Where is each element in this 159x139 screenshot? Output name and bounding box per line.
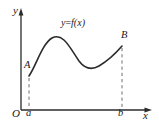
tick-label-b: b	[118, 108, 123, 119]
point-label-a: A	[24, 60, 30, 71]
function-curve	[29, 37, 122, 76]
curve-equation-label: y=f(x)	[61, 18, 85, 28]
function-graph-figure: y x O a b A B y=f(x)	[0, 0, 159, 139]
y-axis-label: y	[13, 5, 18, 16]
point-label-b: B	[121, 30, 127, 41]
curve-equation-rhs: f(x)	[71, 17, 85, 28]
tick-label-a: a	[26, 108, 31, 119]
x-axis-label: x	[143, 110, 148, 121]
y-axis-arrowhead	[19, 8, 24, 16]
origin-label: O	[12, 108, 20, 119]
